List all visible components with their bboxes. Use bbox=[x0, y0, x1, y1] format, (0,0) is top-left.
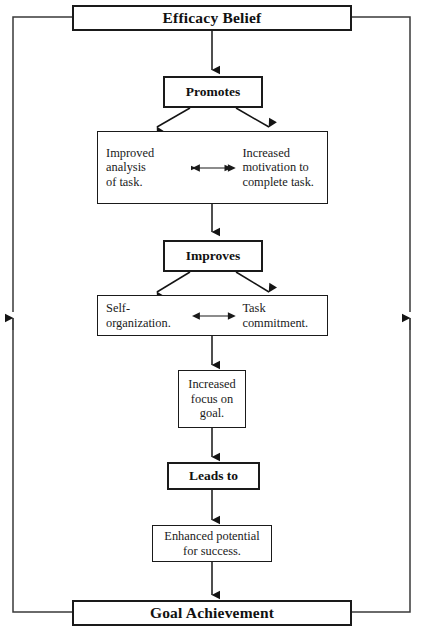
bidirectional-arrow-icon-2 bbox=[191, 309, 237, 323]
node-improves[interactable]: Improves bbox=[163, 240, 263, 272]
node-efficacy-belief[interactable]: Efficacy Belief bbox=[72, 5, 352, 31]
node-goal-achievement[interactable]: Goal Achievement bbox=[72, 600, 352, 626]
wire-improves-split-left bbox=[157, 272, 190, 292]
increased-focus-label: Increased focus on goal. bbox=[188, 377, 235, 420]
wire-promotes-split-right bbox=[236, 108, 269, 127]
improved-analysis-label: Improved analysis of task. bbox=[98, 146, 191, 189]
node-increased-focus[interactable]: Increased focus on goal. bbox=[178, 370, 246, 428]
right-loop-lower bbox=[352, 330, 410, 612]
self-organization-label: Self- organization. bbox=[98, 301, 191, 330]
promotes-label: Promotes bbox=[186, 84, 240, 100]
left-loop-lower bbox=[13, 330, 72, 612]
right-loop-upper bbox=[342, 17, 410, 312]
improves-label: Improves bbox=[186, 248, 241, 264]
enhanced-potential-label: Enhanced potential for success. bbox=[164, 529, 259, 558]
task-commitment-label: Task commitment. bbox=[236, 301, 327, 330]
leads-to-label: Leads to bbox=[189, 468, 238, 484]
left-loop-upper bbox=[13, 17, 82, 312]
wire-improves-split-right bbox=[236, 272, 269, 292]
wire-promotes-split-left bbox=[157, 108, 190, 127]
node-analysis-motivation-pair[interactable]: Improved analysis of task. Increased mot… bbox=[97, 131, 328, 204]
flowchart-diagram: Efficacy Belief Promotes Improved analys… bbox=[0, 0, 423, 638]
efficacy-belief-label: Efficacy Belief bbox=[163, 9, 262, 27]
goal-achievement-label: Goal Achievement bbox=[150, 604, 274, 622]
node-promotes[interactable]: Promotes bbox=[163, 76, 263, 108]
bidirectional-arrow-icon bbox=[191, 161, 237, 175]
node-leads-to[interactable]: Leads to bbox=[167, 462, 260, 490]
increased-motivation-label: Increased motivation to complete task. bbox=[236, 146, 327, 189]
node-enhanced-potential[interactable]: Enhanced potential for success. bbox=[152, 525, 272, 562]
node-selforg-commitment-pair[interactable]: Self- organization. Task commitment. bbox=[97, 295, 328, 336]
